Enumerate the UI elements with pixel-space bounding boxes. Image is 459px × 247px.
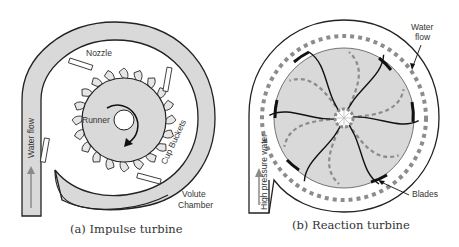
nozzle-label: Nozzle bbox=[86, 48, 112, 58]
water-flow-label: Water flow bbox=[26, 117, 36, 158]
blades-label: Blades bbox=[412, 189, 438, 199]
impulse-turbine-panel: Water flow bbox=[0, 0, 230, 247]
caption-impulse-turbine: (a) Impulse turbine bbox=[70, 222, 183, 236]
runner-label: Runner bbox=[82, 115, 110, 125]
volute-label-line1: Volute bbox=[182, 189, 206, 199]
reaction-turbine-panel: High pressure water Water flow Blades (b… bbox=[229, 0, 459, 247]
water-flow-label-line1: Water bbox=[411, 22, 434, 32]
water-flow-label-line2: flow bbox=[415, 32, 431, 42]
volute-label-line2: Chamber bbox=[178, 200, 213, 210]
high-pressure-water-label: High pressure water bbox=[259, 134, 269, 210]
runner-hub bbox=[114, 110, 134, 130]
reaction-turbine-diagram: High pressure water Water flow Blades bbox=[229, 0, 459, 247]
impulse-turbine-diagram: Water flow bbox=[0, 0, 230, 247]
caption-reaction-turbine: (b) Reaction turbine bbox=[292, 218, 410, 232]
